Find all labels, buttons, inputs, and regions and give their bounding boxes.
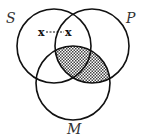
x-mark-right: x bbox=[65, 26, 72, 39]
label-p: P bbox=[125, 10, 136, 26]
venn-diagram: x x S P M bbox=[0, 0, 141, 138]
x-mark-left: x bbox=[38, 26, 45, 39]
label-s: S bbox=[6, 10, 16, 26]
label-m: M bbox=[66, 121, 82, 137]
